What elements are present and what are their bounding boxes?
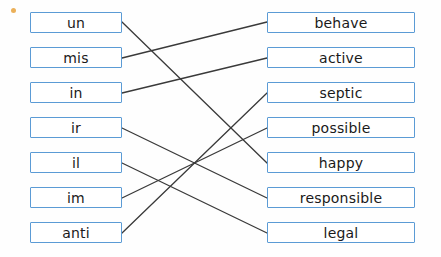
prefix-box-ir[interactable]: ir bbox=[30, 117, 122, 138]
prefix-box-im[interactable]: im bbox=[30, 187, 122, 208]
connection-line-im-to-possible bbox=[122, 128, 267, 198]
prefix-box-label: ir bbox=[71, 120, 81, 134]
connection-line-ir-to-responsible bbox=[122, 128, 267, 198]
word-box-label: septic bbox=[319, 85, 362, 99]
prefix-box-label: il bbox=[72, 155, 80, 169]
word-box-septic[interactable]: septic bbox=[267, 82, 415, 103]
word-box-legal[interactable]: legal bbox=[267, 222, 415, 243]
word-box-label: possible bbox=[312, 120, 371, 134]
connection-line-il-to-legal bbox=[122, 163, 267, 233]
prefix-box-label: im bbox=[67, 190, 85, 204]
prefix-box-label: anti bbox=[62, 225, 90, 239]
prefix-box-label: in bbox=[69, 85, 82, 99]
prefix-box-label: mis bbox=[63, 50, 88, 64]
prefix-box-label: un bbox=[67, 15, 85, 29]
connection-line-mis-to-behave bbox=[122, 22, 267, 58]
word-box-label: behave bbox=[314, 15, 367, 29]
connection-line-anti-to-septic bbox=[122, 93, 267, 233]
connection-line-un-to-happy bbox=[122, 22, 267, 163]
matching-worksheet: unmisinirilimantibehaveactivesepticpossi… bbox=[0, 0, 441, 257]
word-box-label: active bbox=[319, 50, 363, 64]
word-box-possible[interactable]: possible bbox=[267, 117, 415, 138]
word-box-label: happy bbox=[319, 155, 364, 169]
word-box-active[interactable]: active bbox=[267, 47, 415, 68]
prefix-box-in[interactable]: in bbox=[30, 82, 122, 103]
connection-line-in-to-active bbox=[122, 58, 267, 93]
word-box-responsible[interactable]: responsible bbox=[267, 187, 415, 208]
prefix-box-un[interactable]: un bbox=[30, 12, 122, 33]
prefix-box-anti[interactable]: anti bbox=[30, 222, 122, 243]
bullet-marker-icon bbox=[11, 8, 16, 13]
word-box-label: responsible bbox=[300, 190, 382, 204]
prefix-box-mis[interactable]: mis bbox=[30, 47, 122, 68]
word-box-label: legal bbox=[324, 225, 359, 239]
prefix-box-il[interactable]: il bbox=[30, 152, 122, 173]
word-box-behave[interactable]: behave bbox=[267, 12, 415, 33]
word-box-happy[interactable]: happy bbox=[267, 152, 415, 173]
